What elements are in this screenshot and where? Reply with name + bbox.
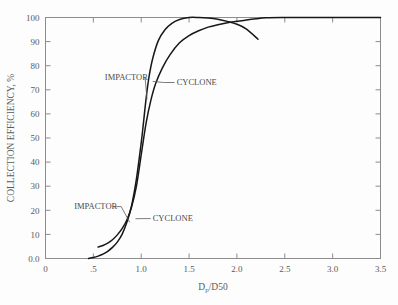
annotation-label-cyclone-upper: CYCLONE <box>177 77 217 87</box>
x-tick-label: 3.5 <box>375 264 387 274</box>
x-tick-label: .5 <box>90 264 97 274</box>
chart-svg: 0.51.01.52.02.53.03.5 0.0102030405060708… <box>0 0 398 305</box>
x-tick-label: 1.0 <box>136 264 148 274</box>
y-tick-label: 90 <box>31 37 41 47</box>
chart-background <box>0 0 398 305</box>
annotation-label-impactor-lower: IMPACTOR <box>74 201 117 211</box>
y-tick-label: 30 <box>31 181 41 191</box>
x-tick-label: 2.0 <box>231 264 243 274</box>
chart-figure: 0.51.01.52.02.53.03.5 0.0102030405060708… <box>0 0 398 305</box>
y-tick-label: 50 <box>31 133 41 143</box>
annotation-label-impactor-upper: IMPACTOR <box>105 72 148 82</box>
y-tick-label: 20 <box>31 206 41 216</box>
y-axis-title: COLLECTION EFFICIENCY, % <box>6 74 16 202</box>
y-tick-label: 10 <box>31 230 41 240</box>
y-tick-label: 60 <box>31 109 41 119</box>
x-tick-label: 2.5 <box>279 264 291 274</box>
y-tick-label: 80 <box>31 61 41 71</box>
y-tick-label: 70 <box>31 85 41 95</box>
x-tick-label: 0 <box>43 264 48 274</box>
x-tick-label: 3.0 <box>327 264 339 274</box>
y-tick-label: 0.0 <box>28 254 40 264</box>
y-tick-label: 40 <box>31 157 41 167</box>
y-tick-label: 100 <box>26 13 40 23</box>
x-tick-label: 1.5 <box>183 264 195 274</box>
annotation-label-cyclone-lower: CYCLONE <box>153 213 193 223</box>
x-axis-title-rest: /D50 <box>209 282 228 292</box>
